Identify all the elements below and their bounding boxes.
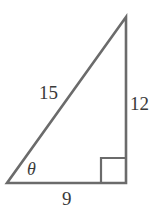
- theta-angle-label: θ: [27, 160, 36, 178]
- hypotenuse-length-label: 15: [39, 83, 58, 102]
- base-leg-length-label: 9: [62, 189, 72, 208]
- right-angle-marker-icon: [101, 158, 126, 183]
- vertical-leg-length-label: 12: [130, 94, 149, 113]
- right-triangle-figure: 15 12 9 θ: [0, 0, 154, 210]
